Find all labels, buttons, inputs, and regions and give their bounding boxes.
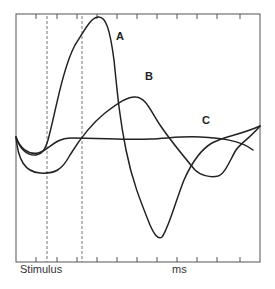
bottom-ticks <box>36 257 240 262</box>
chart-canvas <box>0 0 275 289</box>
waveform-b <box>16 97 260 177</box>
stimulus-label: Stimulus <box>20 263 62 275</box>
top-ticks <box>36 14 240 19</box>
x-axis-unit-label: ms <box>172 263 187 275</box>
curve-label-b: B <box>145 70 153 82</box>
waveform-c <box>16 137 253 154</box>
curve-label-c: C <box>202 114 210 126</box>
waveform-a <box>16 17 260 238</box>
waveform-series <box>16 17 260 238</box>
curve-label-a: A <box>116 30 124 42</box>
